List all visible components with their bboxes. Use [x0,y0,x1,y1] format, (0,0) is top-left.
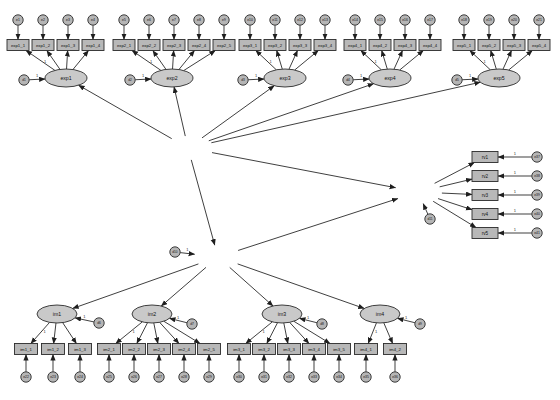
latent-im1[interactable]: im1 [37,305,77,323]
latent-im4[interactable]: im4 [360,305,400,323]
error-e36[interactable]: e36 [390,372,400,382]
error-e5[interactable]: e5 [119,15,129,25]
disturbance-d6[interactable]: d6 [94,318,104,328]
indicator-im2_3[interactable]: im2_3 [148,344,171,355]
indicator-im4_2[interactable]: im4_2 [384,344,407,355]
error-e24[interactable]: e24 [75,372,85,382]
error-e10[interactable]: e10 [245,15,255,25]
indicator-im3_5[interactable]: im3_5 [328,344,351,355]
disturbance-d1[interactable]: d1 [19,75,29,85]
error-e22[interactable]: e22 [21,372,31,382]
error-e14[interactable]: e14 [350,15,360,25]
indicator-exp1_4[interactable]: exp1_4 [82,40,104,51]
error-e2[interactable]: e2 [38,15,48,25]
error-e31[interactable]: e31 [259,372,269,382]
indicator-im1_2[interactable]: im1_2 [42,344,65,355]
error-e17[interactable]: e17 [425,15,435,25]
indicator-im4_1[interactable]: im4_1 [355,344,378,355]
indicator-exp1_1[interactable]: exp1_1 [7,40,29,51]
latent-exp4[interactable]: exp4 [369,69,411,87]
error-e19[interactable]: e19 [484,15,494,25]
error-e13[interactable]: e13 [320,15,330,25]
error-e8[interactable]: e8 [194,15,204,25]
indicator-im3_4[interactable]: im3_4 [303,344,326,355]
indicator-exp4_2[interactable]: exp4_2 [369,40,391,51]
error-e11[interactable]: e11 [270,15,280,25]
indicator-exp4_3[interactable]: exp4_3 [394,40,416,51]
indicator-rv2[interactable]: rv2 [472,171,498,182]
indicator-exp2_3[interactable]: exp2_3 [163,40,185,51]
indicator-exp2_5[interactable]: exp2_5 [213,40,235,51]
error-e40[interactable]: e40 [532,209,542,219]
latent-exp2[interactable]: exp2 [151,69,193,87]
indicator-exp5_3[interactable]: exp5_3 [503,40,525,51]
disturbance-d3[interactable]: d3 [238,75,248,85]
indicator-exp3_1[interactable]: exp3_1 [239,40,261,51]
error-e37[interactable]: e37 [532,152,542,162]
error-e38[interactable]: e38 [532,171,542,181]
indicator-exp5_4[interactable]: exp5_4 [528,40,550,51]
error-e26[interactable]: e26 [129,372,139,382]
indicator-exp5_2[interactable]: exp5_2 [478,40,500,51]
disturbance-d8[interactable]: d8 [317,319,327,329]
error-e34[interactable]: e34 [334,372,344,382]
error-e35[interactable]: e35 [361,372,371,382]
indicator-exp2_2[interactable]: exp2_2 [138,40,160,51]
error-e29[interactable]: e29 [204,372,214,382]
error-e39[interactable]: e39 [532,190,542,200]
disturbance-d4[interactable]: d4 [343,75,353,85]
error-e27[interactable]: e27 [154,372,164,382]
indicator-im1_1[interactable]: im1_1 [15,344,38,355]
indicator-exp1_3[interactable]: exp1_3 [57,40,79,51]
error-e4[interactable]: e4 [88,15,98,25]
latent-im2[interactable]: im2 [132,305,172,323]
indicator-im3_2[interactable]: im3_2 [253,344,276,355]
indicator-exp5_1[interactable]: exp5_1 [453,40,475,51]
error-e12[interactable]: e12 [295,15,305,25]
indicator-exp1_2[interactable]: exp1_2 [32,40,54,51]
latent-im3[interactable]: im3 [262,305,302,323]
error-e30[interactable]: e30 [234,372,244,382]
disturbance-d2[interactable]: d2 [125,75,135,85]
error-e3[interactable]: e3 [63,15,73,25]
latent-exp5[interactable]: exp5 [478,69,520,87]
indicator-im1_3[interactable]: im1_3 [69,344,92,355]
indicator-im3_1[interactable]: im3_1 [228,344,251,355]
indicator-rv5[interactable]: rv5 [472,228,498,239]
indicator-rv1[interactable]: rv1 [472,152,498,163]
error-e21[interactable]: e21 [534,15,544,25]
error-e33[interactable]: e33 [309,372,319,382]
error-e9[interactable]: e9 [219,15,229,25]
indicator-rv4[interactable]: rv4 [472,209,498,220]
latent-exp1[interactable]: exp1 [45,69,87,87]
indicator-im2_4[interactable]: im2_4 [173,344,196,355]
indicator-im2_2[interactable]: im2_2 [123,344,146,355]
disturbance-d5[interactable]: d5 [452,75,462,85]
indicator-im3_3[interactable]: im3_3 [278,344,301,355]
indicator-exp4_1[interactable]: exp4_1 [344,40,366,51]
error-e1[interactable]: e1 [13,15,23,25]
indicator-exp2_1[interactable]: exp2_1 [113,40,135,51]
indicator-im2_1[interactable]: im2_1 [98,344,121,355]
indicator-exp3_4[interactable]: exp3_4 [314,40,336,51]
disturbance-d11[interactable]: d11 [425,214,435,224]
disturbance-d7[interactable]: d7 [187,319,197,329]
error-e16[interactable]: e16 [400,15,410,25]
error-e32[interactable]: e32 [284,372,294,382]
latent-exp3[interactable]: exp3 [264,69,306,87]
error-e6[interactable]: e6 [144,15,154,25]
indicator-exp2_4[interactable]: exp2_4 [188,40,210,51]
indicator-exp3_2[interactable]: exp3_2 [264,40,286,51]
error-e25[interactable]: e25 [104,372,114,382]
disturbance-d9[interactable]: d9 [415,319,425,329]
error-e41[interactable]: e41 [532,228,542,238]
error-e23[interactable]: e23 [48,372,58,382]
error-e20[interactable]: e20 [509,15,519,25]
disturbance-d10[interactable]: d10 [170,247,180,257]
error-e28[interactable]: e28 [179,372,189,382]
error-e18[interactable]: e18 [459,15,469,25]
indicator-exp3_3[interactable]: exp3_3 [289,40,311,51]
error-e15[interactable]: e15 [375,15,385,25]
indicator-rv3[interactable]: rv3 [472,190,498,201]
indicator-im2_5[interactable]: im2_5 [198,344,221,355]
